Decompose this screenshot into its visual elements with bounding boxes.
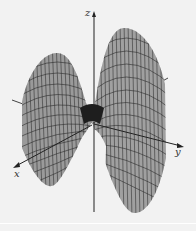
saddle-center-shadow: [80, 104, 104, 124]
surface-gap: [78, 129, 106, 212]
bottom-divider: [0, 223, 196, 224]
y-axis-label: y: [175, 147, 181, 157]
x-axis-label: x: [14, 169, 20, 179]
left-tick: [12, 100, 23, 104]
z-axis-label: z: [85, 8, 90, 18]
z-axis-arrow-icon: [92, 11, 96, 17]
saddle-surface-figure: [0, 0, 196, 231]
